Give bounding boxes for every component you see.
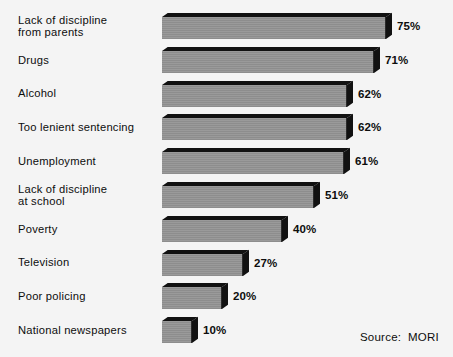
category-label-line: National newspapers	[18, 324, 158, 336]
value-label: 27%	[254, 246, 277, 280]
chart-row: Unemployment61%	[0, 144, 453, 178]
bar-front-face	[162, 85, 347, 107]
bar-front-face	[162, 186, 314, 208]
bar-front-face	[162, 51, 374, 73]
category-label: Poverty	[18, 212, 158, 246]
bar	[162, 114, 353, 144]
category-label: Lack of disciplinefrom parents	[18, 9, 158, 43]
category-label-line: Lack of discipline	[18, 183, 158, 195]
value-label: 62%	[358, 110, 381, 144]
bar-side-face	[243, 249, 249, 275]
category-label-line: Lack of discipline	[18, 14, 158, 26]
category-label: Poor policing	[18, 279, 158, 313]
bar	[162, 47, 380, 77]
bar	[162, 317, 198, 347]
bar-front-face	[162, 118, 347, 140]
bar-front-face	[162, 152, 344, 174]
chart-row: Alcohol62%	[0, 77, 453, 111]
bar-front-face	[162, 287, 222, 309]
category-label: National newspapers	[18, 313, 158, 347]
value-label: 40%	[293, 212, 316, 246]
chart-row: Lack of disciplinefrom parents75%	[0, 9, 453, 43]
bar	[162, 182, 320, 212]
category-label-line: from parents	[18, 26, 158, 38]
plot-area: Lack of disciplinefrom parents75%Drugs71…	[0, 0, 453, 357]
source-note: Source: MORI	[360, 331, 439, 343]
category-label-line: Unemployment	[18, 155, 158, 167]
value-label: 75%	[397, 9, 420, 43]
category-label-line: Too lenient sentencing	[18, 121, 158, 133]
bar-side-face	[222, 283, 228, 309]
value-label: 71%	[385, 43, 408, 77]
value-label: 61%	[355, 144, 378, 178]
category-label-line: Poor policing	[18, 290, 158, 302]
bar-side-face	[374, 46, 380, 72]
bar-side-face	[386, 13, 392, 39]
chart-row: Television27%	[0, 246, 453, 280]
bar-front-face	[162, 220, 282, 242]
bar-side-face	[282, 215, 288, 241]
chart-row: Poor policing20%	[0, 279, 453, 313]
bar-side-face	[314, 182, 320, 208]
category-label: Unemployment	[18, 144, 158, 178]
bar-side-face	[192, 317, 198, 343]
category-label: Television	[18, 246, 158, 280]
chart-row: Drugs71%	[0, 43, 453, 77]
bar	[162, 216, 288, 246]
bar-side-face	[347, 114, 353, 140]
value-label: 10%	[203, 313, 226, 347]
category-label: Lack of disciplineat school	[18, 178, 158, 212]
chart-row: Too lenient sentencing62%	[0, 110, 453, 144]
value-label: 51%	[325, 178, 348, 212]
category-label-line: Television	[18, 256, 158, 268]
bar	[162, 283, 228, 313]
category-label-line: Alcohol	[18, 87, 158, 99]
bar-front-face	[162, 254, 243, 276]
bar-side-face	[344, 148, 350, 174]
bar	[162, 81, 353, 111]
bar-front-face	[162, 321, 192, 343]
chart-row: Lack of disciplineat school51%	[0, 178, 453, 212]
value-label: 20%	[233, 279, 256, 313]
category-label: Too lenient sentencing	[18, 110, 158, 144]
category-label-line: at school	[18, 195, 158, 207]
category-label: Drugs	[18, 43, 158, 77]
bar	[162, 13, 392, 43]
bar-front-face	[162, 17, 386, 39]
bar	[162, 250, 249, 280]
bar	[162, 148, 350, 178]
category-label: Alcohol	[18, 77, 158, 111]
category-label-line: Poverty	[18, 223, 158, 235]
category-label-line: Drugs	[18, 54, 158, 66]
value-label: 62%	[358, 77, 381, 111]
bar-side-face	[347, 80, 353, 106]
chart-row: Poverty40%	[0, 212, 453, 246]
bar-chart: Lack of disciplinefrom parents75%Drugs71…	[0, 0, 453, 357]
